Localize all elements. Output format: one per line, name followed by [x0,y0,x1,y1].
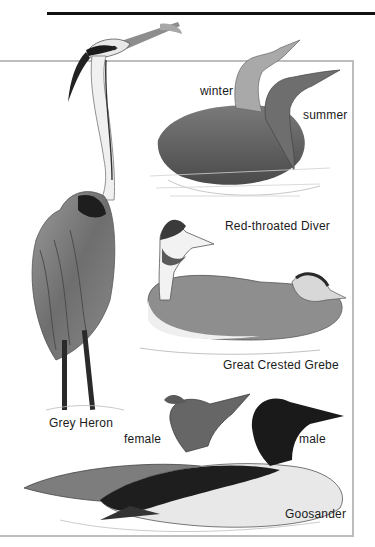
label-great-crested-grebe: Great Crested Grebe [223,358,339,372]
grey-heron-figure [32,22,182,410]
label-goosander: Goosander [285,507,346,521]
label-summer: summer [303,108,348,122]
great-crested-grebe-figure [140,220,346,354]
label-red-throated-diver: Red-throated Diver [225,219,330,233]
label-winter: winter [200,84,233,98]
label-grey-heron: Grey Heron [49,416,113,430]
bird-illustration [0,0,375,547]
label-male: male [299,432,326,446]
label-female: female [124,432,161,446]
